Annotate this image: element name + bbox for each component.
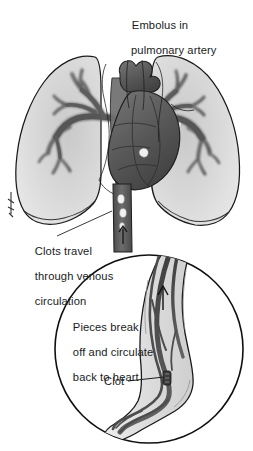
clot-in-vein xyxy=(163,371,171,385)
thorax-view xyxy=(8,56,240,252)
clots-line-1: Clots travel xyxy=(35,245,92,257)
title-caption: Embolus in pulmonary artery xyxy=(119,6,217,81)
clots-line-2: through venous xyxy=(35,270,114,282)
title-line-2: pulmonary artery xyxy=(119,44,217,57)
pulmonary-embolism-figure: Embolus in pulmonary artery Clots travel… xyxy=(0,0,253,451)
peripheral-vessel-detail xyxy=(8,192,14,217)
clots-travel-caption: Clots travel through venous circulation xyxy=(22,232,113,320)
embolus-in-heart xyxy=(139,148,148,157)
clot-label: Clot xyxy=(104,375,124,388)
inferior-vena-cava xyxy=(113,184,132,252)
title-line-1: Embolus in xyxy=(132,19,188,31)
pieces-line-2: off and circulate xyxy=(73,346,153,358)
clots-line-3: circulation xyxy=(35,295,86,307)
pieces-line-1: Pieces break xyxy=(73,321,139,333)
